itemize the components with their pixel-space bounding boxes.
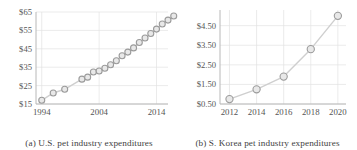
data-point-marker — [39, 97, 45, 103]
plot-area-a: $15$25$35$45$55$65199420042014 — [0, 0, 178, 124]
data-point-marker — [131, 45, 137, 51]
caption-a: (a) U.S. pet industry expenditures — [0, 138, 178, 148]
data-point-marker — [154, 26, 160, 32]
data-point-marker — [102, 65, 108, 71]
x-axis-tick-label: 1994 — [33, 107, 51, 117]
data-point-marker — [171, 13, 177, 19]
data-point-marker — [148, 31, 154, 37]
figure-container: $15$25$35$45$55$65199420042014 (a) U.S. … — [0, 0, 357, 150]
y-axis-tick-label: $4.50 — [197, 21, 216, 31]
x-axis-tick-label: 2016 — [275, 107, 293, 117]
x-axis-tick-label: 2004 — [90, 107, 108, 117]
data-point-marker — [113, 58, 119, 64]
y-axis-tick-label: $15 — [19, 99, 32, 109]
x-axis-tick-label: 2018 — [302, 107, 320, 117]
data-point-marker — [119, 53, 125, 59]
plot-area-b: $0.50$1.50$2.50$3.50$4.50201220142016201… — [178, 0, 357, 124]
y-axis-tick-label: $3.50 — [197, 40, 216, 50]
data-point-marker — [108, 62, 114, 68]
data-point-marker — [253, 86, 260, 93]
y-axis-tick-label: $65 — [19, 7, 32, 17]
y-axis-tick-label: $1.50 — [197, 79, 216, 89]
data-point-marker — [307, 46, 314, 53]
y-axis-tick-label: $2.50 — [197, 60, 216, 70]
data-point-marker — [125, 49, 131, 55]
data-point-marker — [90, 69, 96, 75]
data-point-marker — [85, 74, 91, 80]
line-chart-us: $15$25$35$45$55$65199420042014 — [0, 0, 178, 124]
data-point-marker — [50, 90, 56, 96]
y-axis-tick-label: $35 — [19, 62, 32, 72]
x-axis-tick-label: 2014 — [148, 107, 166, 117]
data-point-marker — [280, 73, 287, 80]
y-axis-tick-label: $45 — [19, 44, 32, 54]
data-point-marker — [226, 96, 233, 103]
data-point-marker — [334, 12, 341, 19]
data-point-marker — [159, 21, 165, 27]
data-point-marker — [165, 17, 171, 23]
chart-panel-b: $0.50$1.50$2.50$3.50$4.50201220142016201… — [178, 0, 357, 150]
chart-panel-a: $15$25$35$45$55$65199420042014 (a) U.S. … — [0, 0, 178, 150]
data-point-marker — [79, 76, 85, 82]
data-point-marker — [96, 68, 102, 74]
y-axis-tick-label: $25 — [19, 81, 32, 91]
data-point-marker — [136, 40, 142, 46]
x-axis-tick-label: 2012 — [221, 107, 239, 117]
data-point-marker — [62, 86, 68, 92]
y-axis-tick-label: $55 — [19, 25, 32, 35]
x-axis-tick-label: 2014 — [248, 107, 266, 117]
caption-b: (b) S. Korea pet industry expenditures — [178, 138, 357, 148]
x-axis-tick-label: 2020 — [329, 107, 347, 117]
line-chart-skorea: $0.50$1.50$2.50$3.50$4.50201220142016201… — [178, 0, 357, 124]
data-point-marker — [142, 35, 148, 41]
y-axis-tick-label: $0.50 — [197, 99, 216, 109]
